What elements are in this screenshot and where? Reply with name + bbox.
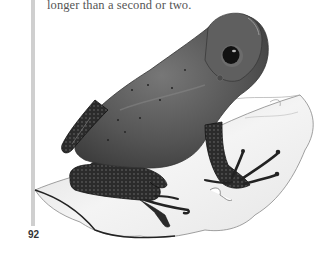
frog-illustration [0,0,327,259]
frog-eye [223,46,240,64]
page-number: 92 [28,229,39,240]
